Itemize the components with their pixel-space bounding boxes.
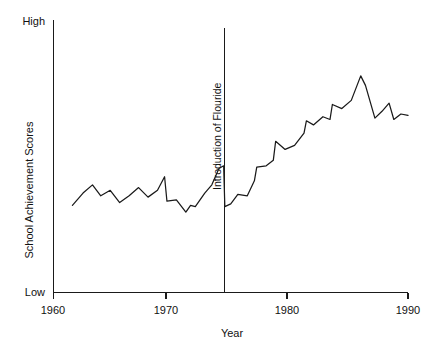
line-chart: 1960 1970 1980 1990 High Low School Achi… — [0, 0, 430, 350]
x-axis-title: Year — [221, 327, 244, 339]
x-tick-label-1980: 1980 — [275, 304, 299, 316]
x-tick-marks — [54, 293, 409, 300]
y-axis-bottom-label: Low — [25, 286, 45, 298]
x-tick-label-1970: 1970 — [154, 304, 178, 316]
x-tick-label-1990: 1990 — [396, 304, 420, 316]
x-tick-label-1960: 1960 — [41, 304, 65, 316]
chart-container: 1960 1970 1980 1990 High Low School Achi… — [0, 0, 430, 350]
y-axis-title: School Achievement Scores — [23, 121, 35, 258]
y-axis-top-label: High — [22, 15, 45, 27]
series-line-school-achievement-scores — [72, 76, 408, 212]
